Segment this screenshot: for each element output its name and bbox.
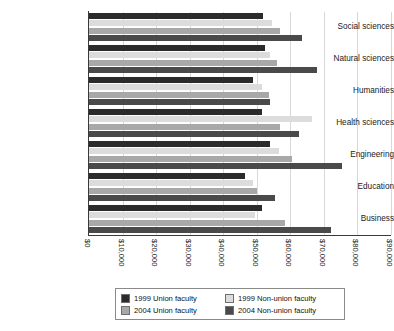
x-axis-tick-label: $70,000 (318, 239, 327, 266)
x-axis-tick-label: $30,000 (184, 239, 193, 266)
bar (89, 45, 265, 51)
x-axis-line (88, 235, 391, 236)
y-axis-category-label: Engineering (308, 151, 394, 159)
y-axis-category-label: Social sciences (308, 23, 394, 31)
bar (89, 35, 302, 41)
legend-swatch-icon (121, 294, 130, 303)
bar (89, 84, 262, 90)
bar (89, 141, 270, 147)
bar (89, 227, 331, 233)
legend-swatch-icon (225, 294, 234, 303)
bar (89, 180, 253, 186)
x-axis-tick-label: $80,000 (351, 239, 360, 266)
bar (89, 52, 270, 58)
y-axis-category-label: Education (308, 183, 394, 191)
bar (89, 220, 285, 226)
y-axis-category-label: Humanities (308, 87, 394, 95)
bar (89, 163, 342, 169)
bar (89, 212, 255, 218)
legend-label: 1999 Union faculty (134, 294, 197, 303)
legend-item[interactable]: 2004 Non-union faculty (225, 306, 337, 315)
bar (89, 77, 253, 83)
legend-swatch-icon (225, 306, 234, 315)
bar (89, 148, 279, 154)
y-axis-category-label: Business (308, 215, 394, 223)
x-axis-tick-label: $40,000 (217, 239, 226, 266)
legend-label: 2004 Union faculty (134, 306, 197, 315)
bar (89, 92, 269, 98)
bar (89, 109, 262, 115)
bar (89, 116, 312, 122)
x-axis-tick-label: $10,000 (117, 239, 126, 266)
y-axis-labels (0, 0, 86, 236)
legend-item[interactable]: 2004 Union faculty (121, 306, 225, 315)
chart-legend: 1999 Union faculty1999 Non-union faculty… (115, 288, 345, 320)
legend-item[interactable]: 1999 Non-union faculty (225, 294, 337, 303)
x-axis-tick-label: $0 (83, 239, 92, 247)
bar (89, 20, 272, 26)
legend-swatch-icon (121, 306, 130, 315)
bar (89, 60, 277, 66)
legend-label: 1999 Non-union faculty (238, 294, 316, 303)
bar (89, 13, 263, 19)
bar-chart: 1999 Union faculty1999 Non-union faculty… (0, 0, 394, 331)
y-axis-category-label: Health sciences (308, 119, 394, 127)
bar (89, 28, 280, 34)
y-axis-line (88, 11, 89, 236)
bar (89, 156, 292, 162)
x-axis-tick-label: $90,000 (385, 239, 394, 266)
bar (89, 99, 270, 105)
gridline (290, 12, 291, 235)
legend-item[interactable]: 1999 Union faculty (121, 294, 225, 303)
x-axis-tick-label: $60,000 (284, 239, 293, 266)
bar (89, 131, 299, 137)
bar (89, 124, 280, 130)
bar (89, 173, 245, 179)
y-axis-category-label: Natural sciences (308, 55, 394, 63)
bar (89, 188, 257, 194)
legend-label: 2004 Non-union faculty (238, 306, 316, 315)
x-axis-tick-label: $50,000 (251, 239, 260, 266)
x-axis-tick-label: $20,000 (150, 239, 159, 266)
bar (89, 195, 275, 201)
bar (89, 67, 317, 73)
bar (89, 205, 262, 211)
